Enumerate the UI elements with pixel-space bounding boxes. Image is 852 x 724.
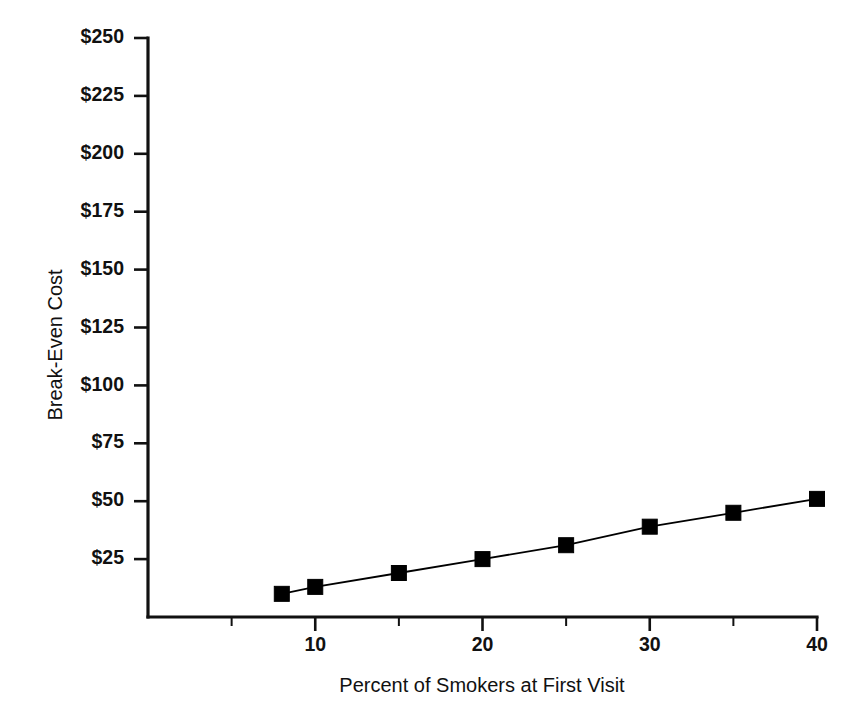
x-tick-label-20: 20 xyxy=(472,633,494,655)
y-tick-label-50: $50 xyxy=(91,488,124,510)
y-tick-label-100: $100 xyxy=(81,373,125,395)
line-chart-canvas: $250 $225 $200 $175 $150 $125 $100 $75 $… xyxy=(0,0,852,724)
y-tick-label-175: $175 xyxy=(81,199,125,221)
x-tick-label-40: 40 xyxy=(806,633,828,655)
x-axis-title: Percent of Smokers at First Visit xyxy=(339,674,625,696)
x-tick-label-10: 10 xyxy=(304,633,326,655)
series-markers xyxy=(274,491,824,601)
data-point-marker xyxy=(274,586,289,601)
x-tick-label-30: 30 xyxy=(639,633,661,655)
chart-figure: $250 $225 $200 $175 $150 $125 $100 $75 $… xyxy=(0,0,852,724)
y-axis-tick-labels: $250 $225 $200 $175 $150 $125 $100 $75 $… xyxy=(81,25,125,568)
y-tick-label-150: $150 xyxy=(81,257,125,279)
data-point-marker xyxy=(810,491,825,506)
y-tick-label-25: $25 xyxy=(91,546,124,568)
data-point-marker xyxy=(642,519,657,534)
data-point-marker xyxy=(726,505,741,520)
y-axis-title: Break-Even Cost xyxy=(44,269,66,421)
data-point-marker xyxy=(308,579,323,594)
y-tick-label-75: $75 xyxy=(91,430,124,452)
data-point-marker xyxy=(559,538,574,553)
y-tick-label-125: $125 xyxy=(81,315,125,337)
y-tick-label-200: $200 xyxy=(81,141,125,163)
y-axis-ticks xyxy=(134,38,148,559)
y-tick-label-250: $250 xyxy=(81,25,125,47)
x-axis-tick-labels: 10 20 30 40 xyxy=(304,633,828,655)
data-point-marker xyxy=(475,552,490,567)
y-tick-label-225: $225 xyxy=(81,83,125,105)
data-point-marker xyxy=(391,566,406,581)
